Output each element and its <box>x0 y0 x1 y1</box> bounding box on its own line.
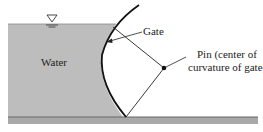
ground-strip <box>8 117 258 124</box>
gate-leader <box>110 32 142 41</box>
gate-arm-lower <box>126 68 164 117</box>
pin-leader <box>166 57 186 67</box>
pin-label-line2: curvature of gate) <box>188 61 263 74</box>
water-region <box>8 24 123 117</box>
free-surface-triangle-icon <box>46 15 58 27</box>
water-label: Water <box>41 56 67 68</box>
pin-point <box>162 66 167 71</box>
pin-label-line1: Pin (center of <box>197 48 257 61</box>
gate-label: Gate <box>143 25 164 37</box>
tainter-gate-diagram: Water Gate Pin (center of curvature of g… <box>0 0 263 132</box>
